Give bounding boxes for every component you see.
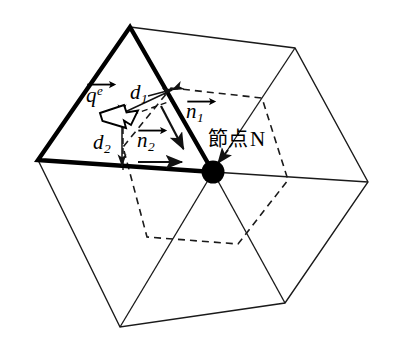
flux-vector-superscript: e bbox=[97, 83, 103, 98]
distance-1-base: d bbox=[130, 80, 141, 104]
normal-1-label: n 1 bbox=[186, 101, 204, 124]
distance-2-label: d2 bbox=[93, 132, 111, 155]
normal-1-base: n bbox=[186, 99, 197, 123]
node-n-label: 節点N bbox=[208, 129, 265, 150]
node-n-label-latin: N bbox=[248, 127, 265, 151]
distance-1-subscript: 1 bbox=[141, 91, 148, 106]
normal-2-label: n 2 bbox=[137, 130, 155, 153]
flux-vector-base: q bbox=[86, 83, 97, 107]
flux-vector-label: q e bbox=[86, 84, 103, 106]
distance-2-subscript: 2 bbox=[104, 141, 111, 156]
node-n-label-japanese: 節点 bbox=[208, 127, 248, 151]
diagram-canvas: q e d1 n 1 d2 n 2 節点N bbox=[0, 0, 394, 350]
distance-2-base: d bbox=[93, 130, 104, 154]
node-n-marker bbox=[202, 161, 225, 184]
normal-1-subscript: 1 bbox=[197, 110, 204, 125]
mesh-diagram-svg bbox=[0, 0, 394, 350]
distance-1-label: d1 bbox=[130, 82, 148, 105]
normal-2-subscript: 2 bbox=[148, 139, 155, 154]
normal-2-base: n bbox=[137, 128, 148, 152]
